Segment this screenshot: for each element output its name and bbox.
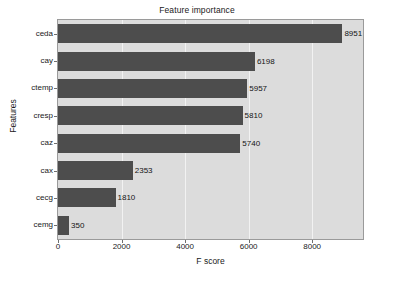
- bar-value-label: 5957: [249, 84, 267, 94]
- y-tick-label: cresp: [1, 111, 53, 121]
- x-axis-tick-labels: 02000400060008000: [57, 242, 364, 256]
- bar[interactable]: [58, 106, 243, 125]
- bar[interactable]: [58, 24, 342, 43]
- y-tick-mark: [54, 61, 57, 62]
- bar-row: 5740: [58, 130, 363, 157]
- y-tick-label: ctemp: [1, 83, 53, 93]
- chart-figure: Feature importance Features cedacayctemp…: [0, 0, 394, 290]
- y-tick-mark: [54, 34, 57, 35]
- x-tick-label: 6000: [240, 242, 258, 252]
- y-axis-tick-labels: cedacayctempcrespcazcaxcecgcemg: [0, 19, 53, 240]
- y-tick-label: cecg: [1, 193, 53, 203]
- plot-area: 8951619859575810574023531810350: [57, 19, 364, 240]
- y-tick-mark: [54, 198, 57, 199]
- bar-row: 350: [58, 212, 363, 239]
- x-tick-mark: [58, 240, 59, 243]
- bar-value-label: 350: [71, 221, 84, 231]
- x-tick-label: 8000: [303, 242, 321, 252]
- bar[interactable]: [58, 216, 69, 235]
- bar-value-label: 8951: [344, 29, 362, 39]
- y-tick-label: cay: [1, 56, 53, 66]
- bar-row: 2353: [58, 157, 363, 184]
- y-tick-mark: [54, 171, 57, 172]
- x-tick-label: 0: [56, 242, 60, 252]
- x-tick-mark: [249, 240, 250, 243]
- x-tick-label: 2000: [113, 242, 131, 252]
- bar-value-label: 5810: [245, 111, 263, 121]
- bar-row: 6198: [58, 47, 363, 74]
- y-tick-label: ceda: [1, 29, 53, 39]
- y-tick-mark: [54, 143, 57, 144]
- bar-value-label: 5740: [242, 139, 260, 149]
- y-tick-mark: [54, 88, 57, 89]
- bar[interactable]: [58, 52, 255, 71]
- y-tick-label: cax: [1, 166, 53, 176]
- bar-row: 1810: [58, 184, 363, 211]
- y-tick-mark: [54, 225, 57, 226]
- bar-value-label: 2353: [135, 166, 153, 176]
- x-tick-mark: [185, 240, 186, 243]
- bar-row: 8951: [58, 20, 363, 47]
- chart-title: Feature importance: [0, 5, 394, 15]
- x-tick-label: 4000: [176, 242, 194, 252]
- y-tick-label: caz: [1, 138, 53, 148]
- y-tick-mark: [54, 116, 57, 117]
- bar[interactable]: [58, 79, 247, 98]
- bar[interactable]: [58, 134, 240, 153]
- bar-row: 5957: [58, 75, 363, 102]
- x-axis-label: F score: [57, 256, 364, 266]
- bar[interactable]: [58, 161, 133, 180]
- bar-value-label: 1810: [118, 193, 136, 203]
- bar[interactable]: [58, 188, 116, 207]
- bar-row: 5810: [58, 102, 363, 129]
- x-tick-mark: [312, 240, 313, 243]
- y-tick-label: cemg: [1, 220, 53, 230]
- bar-value-label: 6198: [257, 57, 275, 67]
- x-tick-mark: [122, 240, 123, 243]
